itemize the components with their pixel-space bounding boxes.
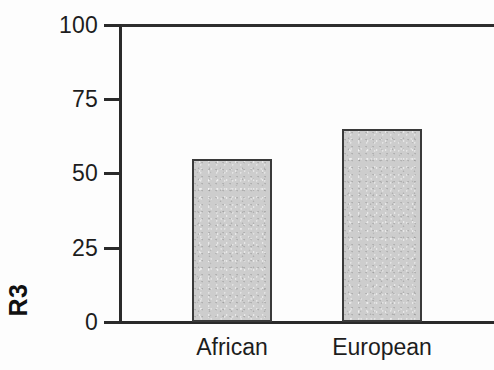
y-tick-label-50: 50 xyxy=(8,162,98,185)
bar-european xyxy=(342,129,422,322)
bar-chart: 100 75 50 25 0 African European R3 xyxy=(0,0,494,370)
y-tick-mark-25 xyxy=(104,247,121,250)
plot-top-rule xyxy=(119,24,494,27)
x-category-label-european: European xyxy=(332,336,432,359)
bar-african xyxy=(192,159,272,322)
y-tick-label-25: 25 xyxy=(8,237,98,260)
y-axis-title: R3 xyxy=(6,284,31,317)
x-category-label-african: African xyxy=(196,336,268,359)
y-tick-mark-100 xyxy=(104,24,121,27)
x-axis-line xyxy=(119,321,494,324)
y-tick-label-75: 75 xyxy=(8,88,98,111)
y-tick-mark-75 xyxy=(104,98,121,101)
y-tick-label-100: 100 xyxy=(8,14,98,37)
y-tick-mark-50 xyxy=(104,172,121,175)
y-tick-mark-0 xyxy=(104,321,121,324)
